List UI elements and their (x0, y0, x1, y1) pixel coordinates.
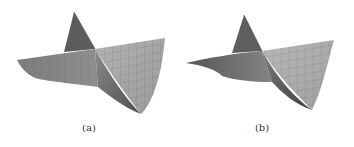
panel-a: (a) (0, 0, 177, 147)
caption-a: (a) (69, 122, 109, 133)
caption-b: (b) (242, 122, 282, 133)
peak-face-a (64, 12, 95, 52)
panel-b: (b) (177, 0, 354, 147)
